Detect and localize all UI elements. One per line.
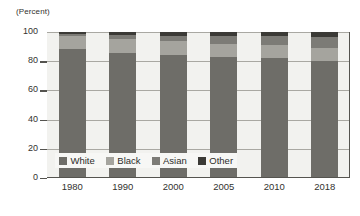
bar-segment[interactable] <box>311 37 338 48</box>
bar-segment[interactable] <box>210 36 237 43</box>
chart-legend: WhiteBlackAsianOther <box>55 153 237 168</box>
legend-swatch-icon <box>59 157 67 165</box>
legend-label: Other <box>209 155 233 166</box>
legend-item[interactable]: Black <box>106 155 141 166</box>
bar-segment[interactable] <box>160 41 187 55</box>
x-axis-tick-label: 1980 <box>47 181 97 192</box>
legend-item[interactable]: Other <box>198 155 233 166</box>
y-axis-tick-mark <box>40 90 47 91</box>
bar-column[interactable] <box>261 32 288 177</box>
bar-segment[interactable] <box>210 44 237 58</box>
legend-label: Asian <box>163 155 187 166</box>
legend-swatch-icon <box>106 157 114 165</box>
y-axis-tick-label: 80 <box>14 55 38 65</box>
legend-item[interactable]: Asian <box>152 155 187 166</box>
y-axis-tick-mark <box>40 120 47 121</box>
x-axis-tick-label: 2010 <box>249 181 299 192</box>
x-axis-tick-label: 2005 <box>199 181 249 192</box>
bar-segment[interactable] <box>59 36 86 49</box>
stacked-bar-chart: (Percent) 100806040200 19801990200020052… <box>0 0 360 216</box>
legend-label: Black <box>117 155 140 166</box>
bar-segment[interactable] <box>311 48 338 61</box>
stacked-bar[interactable] <box>311 32 338 177</box>
legend-swatch-icon <box>152 157 160 165</box>
y-axis-unit-label: (Percent) <box>16 7 50 16</box>
y-axis-tick-label: 40 <box>14 114 38 124</box>
y-axis-tick-mark <box>40 149 47 150</box>
x-axis-tick-label: 1990 <box>98 181 148 192</box>
y-axis-tick-label: 60 <box>14 84 38 94</box>
x-axis-tick-label: 2018 <box>300 181 350 192</box>
bar-segment[interactable] <box>261 58 288 177</box>
bar-segment[interactable] <box>109 39 136 54</box>
bar-segment[interactable] <box>261 36 288 45</box>
y-axis-tick-label: 100 <box>14 26 38 36</box>
bar-segment[interactable] <box>261 45 288 58</box>
y-axis-tick-label: 0 <box>14 172 38 182</box>
y-axis-tick-mark <box>40 178 47 179</box>
y-axis-tick-label: 20 <box>14 143 38 153</box>
legend-item[interactable]: White <box>59 155 95 166</box>
bar-segment[interactable] <box>311 61 338 177</box>
y-axis-tick-mark <box>40 61 47 62</box>
stacked-bar[interactable] <box>261 32 288 177</box>
legend-label: White <box>71 155 95 166</box>
bar-column[interactable] <box>311 32 338 177</box>
legend-swatch-icon <box>198 157 206 165</box>
x-axis-tick-label: 2000 <box>148 181 198 192</box>
